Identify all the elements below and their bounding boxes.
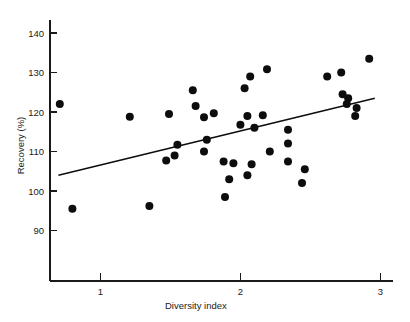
- x-axis-title: Diversity index: [165, 300, 227, 311]
- data-point: [200, 113, 208, 121]
- data-point: [353, 104, 361, 112]
- data-point: [203, 136, 211, 144]
- y-axis-tick-label: 100: [28, 186, 44, 197]
- data-point: [56, 100, 64, 108]
- data-point: [323, 72, 331, 80]
- data-point: [221, 193, 229, 201]
- data-point: [284, 126, 292, 134]
- data-point: [298, 179, 306, 187]
- data-point: [337, 69, 345, 77]
- data-point: [162, 157, 170, 165]
- data-point: [145, 202, 153, 210]
- x-axis-tick-label: 1: [98, 286, 103, 297]
- data-point: [259, 111, 267, 119]
- data-point: [284, 157, 292, 165]
- data-point: [200, 148, 208, 156]
- scatter-plot-figure: 90100110120130140123 Recovery (%) Divers…: [0, 0, 410, 322]
- data-point: [192, 102, 200, 110]
- data-point: [173, 141, 181, 149]
- data-point: [301, 165, 309, 173]
- data-point: [220, 157, 228, 165]
- data-point: [68, 205, 76, 213]
- y-axis-tick-label: 130: [28, 67, 44, 78]
- data-point: [365, 55, 373, 63]
- data-point: [250, 124, 258, 132]
- plot-canvas: 90100110120130140123: [0, 0, 410, 322]
- trend-line: [58, 98, 374, 175]
- data-point: [236, 121, 244, 129]
- data-point: [126, 113, 134, 121]
- data-point: [248, 160, 256, 168]
- data-point: [266, 148, 274, 156]
- data-point: [171, 151, 179, 159]
- data-point: [246, 72, 254, 80]
- x-axis-tick-label: 3: [378, 286, 383, 297]
- data-point: [229, 159, 237, 167]
- data-point: [351, 112, 359, 120]
- y-axis-tick-label: 140: [28, 28, 44, 39]
- data-point: [165, 110, 173, 118]
- y-axis-title: Recovery (%): [15, 106, 26, 186]
- data-point: [344, 94, 352, 102]
- data-point: [241, 84, 249, 92]
- y-axis-tick-label: 110: [29, 146, 44, 157]
- data-point: [225, 175, 233, 183]
- x-axis-tick-label: 2: [238, 286, 243, 297]
- data-point: [210, 109, 218, 117]
- data-point: [189, 86, 197, 94]
- data-point: [284, 140, 292, 148]
- y-axis-tick-label: 90: [33, 225, 44, 236]
- y-axis-tick-label: 120: [28, 107, 44, 118]
- data-point: [263, 65, 271, 73]
- data-point: [243, 112, 251, 120]
- data-point: [243, 171, 251, 179]
